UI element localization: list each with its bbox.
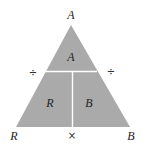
multiply-operator-bottom: × bbox=[68, 130, 76, 141]
divide-operator-left: ÷ bbox=[29, 67, 37, 78]
formula-triangle-diagram: A R B A R B ÷ ÷ × bbox=[0, 0, 145, 148]
section-label-bottom-left: R bbox=[45, 96, 54, 110]
divide-operator-right: ÷ bbox=[107, 66, 115, 77]
vertex-label-bottom-right: B bbox=[127, 129, 135, 143]
vertex-label-top: A bbox=[66, 8, 75, 22]
section-label-bottom-right: B bbox=[85, 96, 93, 110]
vertex-label-bottom-left: R bbox=[9, 129, 18, 143]
section-label-top: A bbox=[66, 50, 75, 64]
